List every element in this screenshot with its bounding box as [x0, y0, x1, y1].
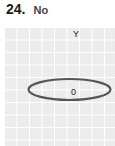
point-label-zero: 0 [71, 87, 76, 97]
ellipse-shape [0, 0, 115, 146]
